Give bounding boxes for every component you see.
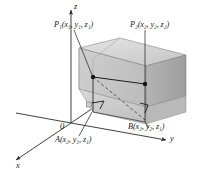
- point-p1-dot: [91, 75, 95, 79]
- label-point-p1-text: P₁(x₁, y₁, z₁): [54, 20, 93, 29]
- label-point-a: A(x₂, y₁, z₁): [55, 136, 91, 144]
- label-point-p1: P₁(x₁, y₁, z₁): [54, 21, 93, 29]
- label-origin-text: 0: [60, 121, 64, 131]
- label-point-b: B(x₂, y₂, z₁): [128, 123, 164, 131]
- label-point-a-text: A(x₂, y₁, z₁): [55, 135, 91, 144]
- label-point-p2: P₂(x₂, y₂, z₂): [130, 21, 169, 29]
- diagram-canvas: [0, 0, 200, 175]
- point-p2-dot: [143, 82, 147, 86]
- label-axis-z: z: [74, 2, 77, 11]
- box-solid: [79, 38, 186, 124]
- label-axis-x-text: x: [16, 160, 20, 170]
- label-origin: 0: [60, 122, 64, 131]
- label-point-p2-text: P₂(x₂, y₂, z₂): [130, 20, 169, 29]
- label-axis-y: y: [170, 134, 174, 143]
- label-axis-y-text: y: [170, 133, 174, 143]
- leader-line-a: [79, 112, 92, 136]
- label-axis-z-text: z: [74, 1, 77, 11]
- figure-3d-box-diagram: P₁(x₁, y₁, z₁) P₂(x₂, y₂, z₂) A(x₂, y₁, …: [0, 0, 200, 175]
- corner-square-mark: [87, 102, 92, 107]
- label-point-b-text: B(x₂, y₂, z₁): [128, 122, 164, 131]
- label-axis-x: x: [16, 161, 20, 170]
